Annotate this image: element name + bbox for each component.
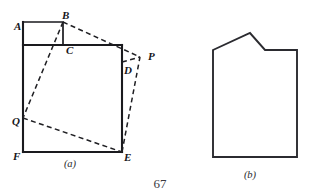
dashed-line-d-to-p — [122, 57, 140, 62]
vertex-label-f: F — [12, 150, 21, 162]
page-number: 67 — [154, 176, 168, 191]
figure-b-caption: (b) — [244, 169, 257, 181]
vertex-label-b: B — [61, 9, 69, 21]
figure-illustration: A B C D P Q F E (a) (b) 67 — [0, 0, 317, 196]
vertex-label-p: P — [148, 50, 155, 62]
figure-a-group: A B C D P Q F E (a) — [12, 9, 155, 170]
vertex-label-a: A — [13, 20, 21, 32]
dashed-line-b-to-q — [23, 22, 63, 118]
vertex-label-e: E — [123, 151, 131, 163]
dashed-line-b-to-p — [63, 22, 140, 57]
vertex-label-d: D — [123, 64, 132, 76]
small-square-abc-path — [23, 22, 63, 45]
hexagon-house-outline-path — [213, 33, 297, 157]
figure-b-group: (b) — [213, 33, 297, 181]
vertex-label-q: Q — [12, 115, 20, 127]
figure-page: A B C D P Q F E (a) (b) 67 — [0, 0, 317, 196]
dashed-line-q-to-e — [23, 118, 122, 152]
figure-a-caption: (a) — [64, 158, 77, 170]
vertex-label-c: C — [66, 44, 74, 56]
